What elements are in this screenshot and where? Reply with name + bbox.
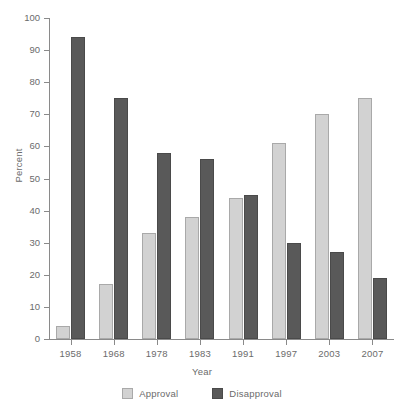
y-axis-title: Percent <box>13 126 24 206</box>
bar-chart: Percent 0102030405060708090100 195819681… <box>0 0 404 411</box>
chart-legend: ApprovalDisapproval <box>0 388 404 399</box>
x-axis-tick-label: 1997 <box>262 348 310 359</box>
y-axis-tick-label: 30 <box>10 238 40 248</box>
bar-disapproval-1997 <box>287 243 301 339</box>
x-axis-tick-label: 2003 <box>305 348 353 359</box>
bar-approval-1958 <box>56 326 70 339</box>
x-axis-tick-mark <box>157 340 158 345</box>
x-axis-tick-label: 1968 <box>90 348 138 359</box>
legend-swatch-approval-icon <box>122 388 133 399</box>
bar-approval-2003 <box>315 114 329 339</box>
x-axis-tick-mark <box>329 340 330 345</box>
x-axis-line <box>49 339 394 340</box>
y-axis-tick-label: 10 <box>10 302 40 312</box>
x-axis-tick-label: 1978 <box>133 348 181 359</box>
bar-disapproval-2003 <box>330 252 344 339</box>
legend-entry-disapproval: Disapproval <box>212 388 281 399</box>
legend-label: Approval <box>139 388 178 399</box>
bar-disapproval-1978 <box>157 153 171 339</box>
bar-disapproval-1968 <box>114 98 128 339</box>
y-axis-tick-label: 0 <box>10 334 40 344</box>
legend-entry-approval: Approval <box>122 388 178 399</box>
plot-area <box>49 18 394 339</box>
bar-disapproval-1991 <box>244 195 258 339</box>
bar-disapproval-2007 <box>373 278 387 339</box>
x-axis-tick-mark <box>286 340 287 345</box>
x-axis-tick-mark <box>243 340 244 345</box>
y-axis-tick-label: 40 <box>10 206 40 216</box>
x-axis-tick-mark <box>71 340 72 345</box>
x-axis-tick-label: 1991 <box>219 348 267 359</box>
x-axis-tick-label: 1958 <box>47 348 95 359</box>
x-axis-tick-mark <box>200 340 201 345</box>
bar-approval-2007 <box>358 98 372 339</box>
x-axis-tick-label: 2007 <box>348 348 396 359</box>
y-axis-tick-label: 80 <box>10 77 40 87</box>
legend-swatch-disapproval-icon <box>212 388 223 399</box>
y-axis-tick-label: 100 <box>10 13 40 23</box>
x-axis-tick-label: 1983 <box>176 348 224 359</box>
y-axis-tick-label: 20 <box>10 270 40 280</box>
x-axis-tick-mark <box>372 340 373 345</box>
bar-approval-1968 <box>99 284 113 339</box>
bar-approval-1978 <box>142 233 156 339</box>
bar-approval-1991 <box>229 198 243 339</box>
x-axis-tick-mark <box>114 340 115 345</box>
y-axis-tick-label: 50 <box>10 174 40 184</box>
bar-disapproval-1958 <box>71 37 85 339</box>
y-axis-tick-label: 70 <box>10 109 40 119</box>
bar-approval-1983 <box>185 217 199 339</box>
bar-approval-1997 <box>272 143 286 339</box>
bar-disapproval-1983 <box>200 159 214 339</box>
y-axis-tick-label: 60 <box>10 141 40 151</box>
legend-label: Disapproval <box>229 388 281 399</box>
y-axis-tick-label: 90 <box>10 45 40 55</box>
x-axis-title: Year <box>0 366 404 377</box>
